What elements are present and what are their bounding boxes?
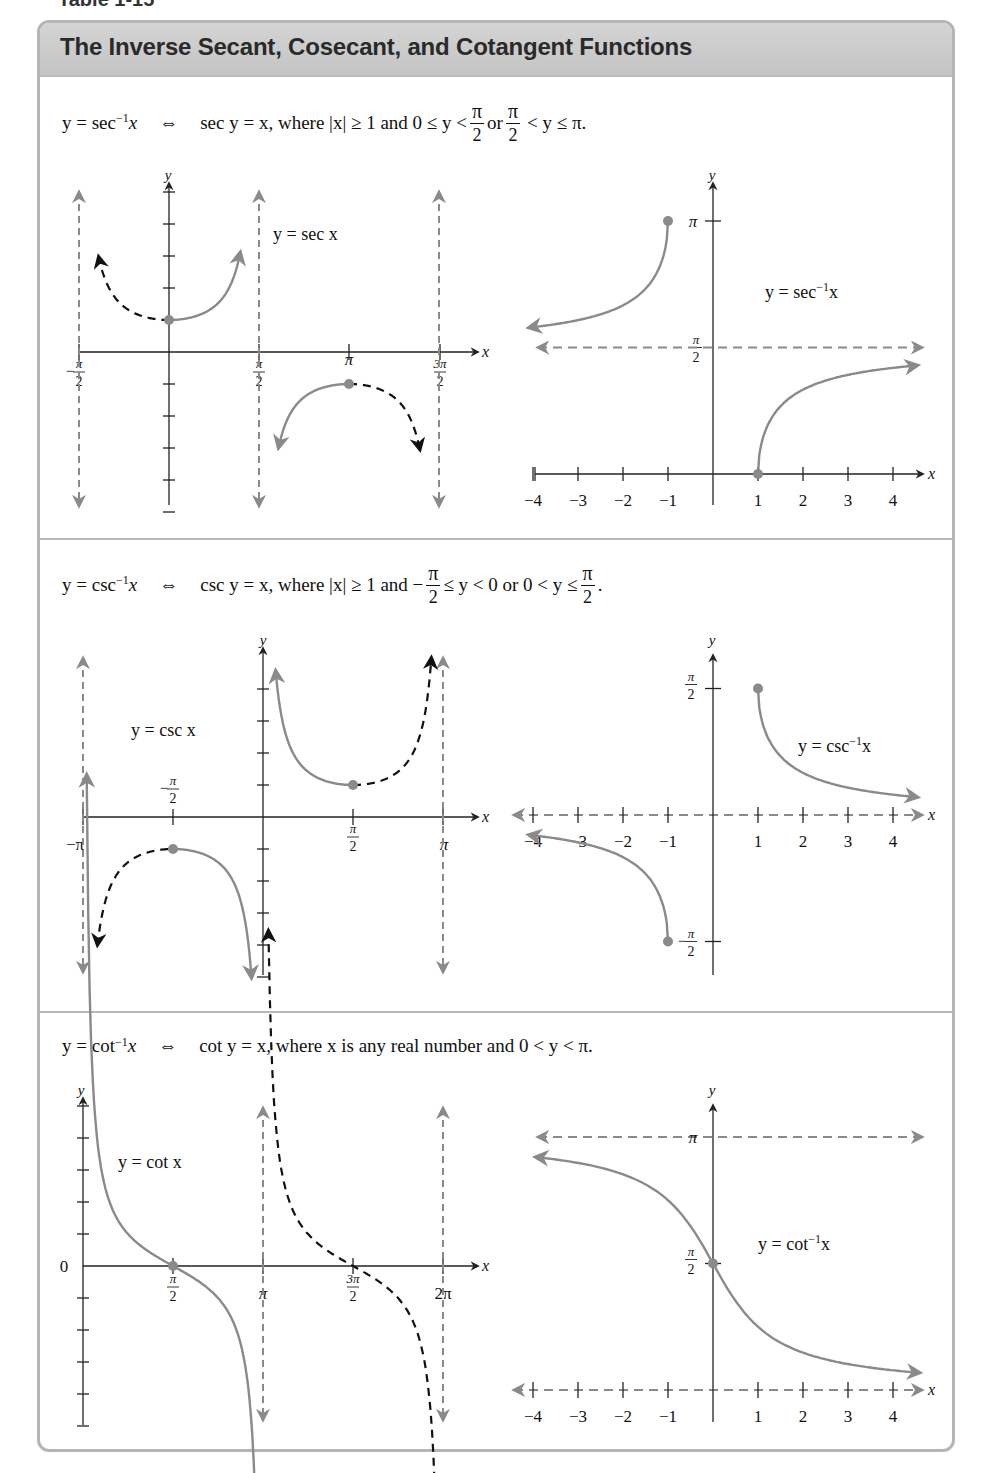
tick-label: 2 [688, 1262, 695, 1277]
label-text: y = csc [798, 736, 849, 756]
csc-curve-extension [353, 657, 431, 785]
tick-label: −2 [614, 1407, 632, 1426]
x-axis-label: x [481, 808, 489, 825]
point-marker [168, 844, 178, 854]
tick-label: π [688, 926, 695, 941]
y-axis-label: y [258, 632, 267, 648]
tick-label: π [440, 835, 449, 854]
y-axis-label: y [163, 167, 172, 183]
tick-label: 1 [754, 1407, 763, 1426]
tick-label: − [678, 933, 686, 949]
label-var: x [829, 282, 838, 302]
tick-label: 3π [345, 1271, 360, 1286]
tick-label: −1 [659, 491, 677, 510]
csc-curve-principal [276, 670, 353, 785]
tick-label: π [688, 669, 695, 684]
y-axis-label: y [707, 167, 716, 183]
tick-label: −4 [524, 491, 543, 510]
tick-label: π [689, 1128, 698, 1147]
tick-label: 2 [350, 1289, 357, 1304]
y-axis-label: y [707, 632, 716, 648]
label-text: y = cot [758, 1234, 808, 1254]
tick-label: 3 [844, 832, 853, 851]
x-axis-label: x [927, 806, 935, 823]
arcsec-curve-right [758, 365, 918, 474]
tick-label: −4 [524, 1407, 543, 1426]
tick-label: π [170, 1271, 177, 1286]
tick-label: 2 [688, 944, 695, 959]
tick-label: π [689, 212, 698, 231]
tick-label: 2 [799, 832, 808, 851]
tick-label: π [688, 1244, 695, 1259]
point-marker [168, 1261, 178, 1271]
tick-label: 1 [754, 832, 763, 851]
graph-label: y = cot x [118, 1152, 182, 1172]
graph-label: y = csc−1x [798, 734, 871, 756]
tick-label: −1 [659, 1407, 677, 1426]
label-text: y = sec x [273, 224, 338, 244]
tick-label: −1 [659, 832, 677, 851]
y-axis-label: y [707, 1082, 716, 1098]
label-sup: −1 [816, 280, 829, 294]
tick-label: 3 [844, 491, 853, 510]
point-marker [753, 469, 763, 479]
tick-label: −2 [614, 832, 632, 851]
tick-label: −2 [614, 491, 632, 510]
tick-label: 3 [844, 1407, 853, 1426]
label-text: y = csc x [131, 720, 196, 740]
label-text: y = sec [765, 282, 816, 302]
tick-label: π [170, 773, 177, 788]
csc-curve-principal [173, 849, 252, 978]
tick-label: −3 [569, 491, 587, 510]
point-marker [708, 1259, 718, 1269]
tick-label: 2 [170, 791, 177, 806]
sec-curve-principal [169, 252, 240, 320]
sec-curve-extension [99, 256, 170, 320]
x-axis-label: x [481, 343, 489, 360]
point-marker [344, 379, 354, 389]
tick-label: π [693, 332, 700, 347]
tick-label: 2 [799, 491, 808, 510]
label-text: y = cot x [118, 1152, 182, 1172]
label-var: x [821, 1234, 830, 1254]
tick-label: −π [66, 835, 85, 854]
cot-curve-extension [268, 930, 439, 1473]
tick-label: 2 [799, 1407, 808, 1426]
tick-label: 2 [350, 839, 357, 854]
graph-label: y = sec x [273, 224, 338, 244]
graph-label: y = csc x [131, 720, 196, 740]
tick-label: 2 [693, 350, 700, 365]
tick-label: 2 [170, 1289, 177, 1304]
point-marker [164, 315, 174, 325]
tick-label: 0 [60, 1257, 69, 1276]
point-marker [663, 216, 673, 226]
arccsc-curve-left [529, 835, 669, 942]
tick-label: π [350, 821, 357, 836]
tick-label: π [345, 350, 354, 369]
tick-label: 2 [688, 687, 695, 702]
graph-label: y = cot−1x [758, 1232, 830, 1254]
tick-label: −3 [569, 1407, 587, 1426]
tick-label: 1 [754, 491, 763, 510]
graph-label: y = sec−1x [765, 280, 838, 302]
graphs-layer: yx−π2π2π3π2y = sec x−4−3−2−11234ππ2yxy =… [0, 0, 985, 1473]
label-sup: −1 [849, 734, 862, 748]
label-var: x [862, 736, 871, 756]
arccot-curve [535, 1157, 920, 1373]
x-axis-label: x [927, 1381, 935, 1398]
arcsec-curve-left [529, 221, 669, 328]
tick-label: 4 [889, 491, 898, 510]
label-sup: −1 [808, 1232, 821, 1246]
sec-curve-principal [278, 384, 349, 448]
tick-label: 4 [889, 832, 898, 851]
y-axis-label: y [76, 1082, 85, 1098]
graphs-svg: yx−π2π2π3π2y = sec x−4−3−2−11234ππ2yxy =… [0, 0, 985, 1473]
point-marker [348, 780, 358, 790]
x-axis-label: x [927, 465, 935, 482]
tick-label: − [66, 363, 74, 379]
sec-curve-extension [349, 384, 420, 450]
x-axis-label: x [481, 1257, 489, 1274]
csc-curve-extension [97, 849, 173, 946]
tick-label: 4 [889, 1407, 898, 1426]
tick-label: − [160, 780, 168, 796]
